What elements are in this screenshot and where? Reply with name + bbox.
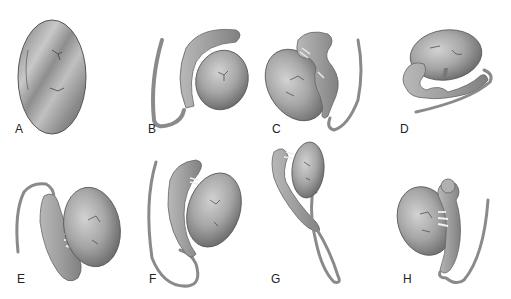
panel-a	[18, 20, 86, 134]
panel-e	[17, 183, 127, 281]
panel-label-a: A	[15, 123, 23, 135]
testis-g	[290, 141, 327, 200]
anatomy-illustration	[0, 0, 511, 299]
panel-c	[253, 32, 361, 132]
panel-g	[272, 141, 339, 283]
panel-label-f: F	[149, 273, 156, 285]
testis-a	[18, 20, 86, 134]
figure-stage: A B C D E F G H	[0, 0, 511, 299]
panel-d	[403, 25, 491, 112]
panel-h	[389, 179, 488, 283]
panel-label-e: E	[17, 273, 25, 285]
vas-deferens-g	[312, 192, 340, 282]
panel-label-h: H	[403, 273, 412, 285]
panel-label-g: G	[271, 273, 280, 285]
panel-label-b: B	[148, 123, 156, 135]
panel-label-c: C	[272, 123, 281, 135]
vas-deferens-b	[153, 40, 184, 126]
panel-b	[153, 29, 255, 126]
panel-label-d: D	[400, 123, 409, 135]
epididymis-head-h	[441, 179, 455, 193]
panel-f	[149, 160, 251, 286]
